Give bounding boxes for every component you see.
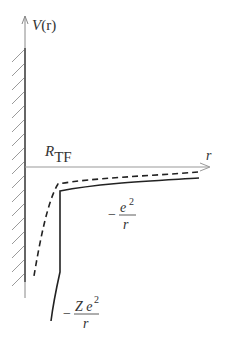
svg-text:2: 2 [94,294,99,305]
outer-potential-label: − e 2 r [108,196,136,232]
dashed-potential-curve [34,172,198,276]
potential-diagram: V(r) RTF r − e 2 r − Z e 2 r [0,0,226,358]
svg-text:e: e [120,200,126,215]
wall-hatching [12,50,24,286]
svg-text:r: r [83,316,89,331]
svg-text:2: 2 [129,196,134,207]
svg-text:r: r [123,217,129,232]
svg-text:−: − [108,207,116,222]
y-axis-label: V(r) [32,17,56,34]
svg-text:−: − [63,306,71,321]
inner-potential-label: − Z e 2 r [63,294,99,331]
x-axis-label: r [206,148,212,163]
radius-label: RTF [44,143,72,165]
svg-text:Z e: Z e [75,299,93,314]
x-axis [25,163,210,171]
y-axis [22,16,28,298]
